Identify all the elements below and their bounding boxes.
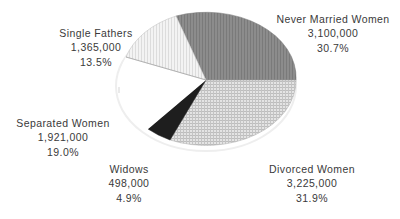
label-name: Widows	[99, 163, 159, 177]
label-percent: 30.7%	[268, 42, 398, 56]
label-percent: 19.0%	[8, 146, 118, 160]
label-name: Never Married Women	[268, 13, 398, 27]
label-never-married-women: Never Married Women 3,100,000 30.7%	[268, 13, 398, 56]
label-percent: 4.9%	[99, 192, 159, 206]
label-name: Divorced Women	[262, 163, 362, 177]
label-widows: Widows 498,000 4.9%	[99, 163, 159, 206]
label-percent: 13.5%	[46, 56, 146, 70]
label-divorced-women: Divorced Women 3,225,000 31.9%	[262, 163, 362, 206]
label-value: 3,225,000	[262, 177, 362, 191]
label-name: Separated Women	[8, 117, 118, 131]
label-percent: 31.9%	[262, 192, 362, 206]
label-value: 1,365,000	[46, 41, 146, 55]
label-single-fathers: Single Fathers 1,365,000 13.5%	[46, 27, 146, 70]
label-name: Single Fathers	[46, 27, 146, 41]
label-value: 3,100,000	[268, 27, 398, 41]
label-separated-women: Separated Women 1,921,000 19.0%	[8, 117, 118, 160]
label-value: 1,921,000	[8, 131, 118, 145]
label-value: 498,000	[99, 177, 159, 191]
